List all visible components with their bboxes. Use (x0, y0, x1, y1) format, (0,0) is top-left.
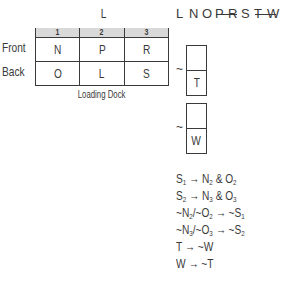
grid-cell: L (80, 62, 124, 86)
negation-mark: ~ (176, 120, 183, 134)
letter: W (267, 6, 280, 21)
loading-dock-label: Loading Dock (35, 89, 169, 100)
slot-empty (187, 46, 206, 71)
grid-cell: R (124, 38, 168, 62)
slot-value: T (187, 71, 206, 95)
slot-empty (187, 104, 206, 129)
letter-list: LNOPRSTW (176, 6, 280, 21)
rule-4: ~N3/~O3 → ~S2 (176, 222, 264, 238)
letter: L (176, 6, 189, 21)
row-label-back: Back (2, 64, 31, 79)
grid-cell: S (124, 62, 168, 86)
grid-row-front: N P R (36, 38, 169, 62)
grid-cell: O (36, 62, 80, 86)
seating-grid: 1 2 3 N P R O L S (35, 28, 169, 86)
struck-pair-t-w: TW (254, 6, 280, 21)
column-header-1: 1 (36, 28, 80, 38)
grid-cell: P (80, 38, 124, 62)
rule-6: W → ~T (176, 256, 224, 272)
slot-box-w: W (186, 103, 207, 154)
letter: R (228, 6, 241, 21)
rule-1: S1 → N2 & O2 (176, 171, 254, 187)
rule-5: T → ~W (176, 239, 224, 255)
slot-value: W (187, 129, 206, 153)
column-header-2: 2 (80, 28, 124, 38)
grid-cell: N (36, 38, 80, 62)
letter: O (202, 6, 215, 21)
rule-2: S2 → N3 & O3 (176, 188, 254, 204)
slot-box-t: T (186, 45, 207, 96)
negation-mark: ~ (176, 62, 183, 76)
grid-title: L (94, 6, 114, 21)
column-header-3: 3 (124, 28, 168, 38)
grid-row-back: O L S (36, 62, 169, 86)
letter: S (241, 6, 254, 21)
letter: T (254, 6, 267, 21)
rule-3: ~N2/~O2 → ~S1 (176, 205, 264, 221)
struck-pair-p-r: PR (215, 6, 241, 21)
letter: N (189, 6, 202, 21)
letter: P (215, 6, 228, 21)
row-label-front: Front (2, 40, 32, 55)
